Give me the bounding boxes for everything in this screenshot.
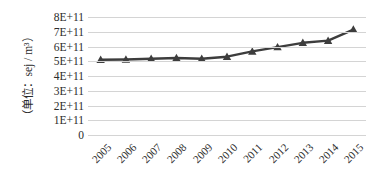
gridline xyxy=(88,17,366,18)
gridline xyxy=(88,76,366,77)
gridline xyxy=(88,32,366,33)
x-tick-label: 2005 xyxy=(81,141,114,174)
x-tick-label: 2008 xyxy=(156,141,189,174)
y-tick-label: 3E+11 xyxy=(24,85,84,97)
x-tick-label: 2012 xyxy=(257,141,290,174)
y-tick-label: 4E+11 xyxy=(24,70,84,82)
gridline xyxy=(88,47,366,48)
y-tick-label: 5E+11 xyxy=(24,55,84,67)
x-tick-label: 2011 xyxy=(232,141,265,174)
x-tick-label: 2015 xyxy=(333,141,366,174)
y-axis-tick-labels: 01E+112E+113E+114E+115E+116E+117E+118E+1… xyxy=(24,10,84,140)
gridline xyxy=(88,91,366,92)
gridline xyxy=(88,61,366,62)
gridline xyxy=(88,106,366,107)
line-chart-figure: （单位：sej / m³） 01E+112E+113E+114E+115E+11… xyxy=(0,0,375,184)
y-tick-label: 7E+11 xyxy=(24,26,84,38)
y-tick-label: 8E+11 xyxy=(24,11,84,23)
y-tick-label: 2E+11 xyxy=(24,100,84,112)
y-tick-label: 1E+11 xyxy=(24,114,84,126)
gridline xyxy=(88,120,366,121)
x-tick-label: 2009 xyxy=(182,141,215,174)
x-axis-tick-labels: 2005200620072008200920102011201220132014… xyxy=(88,135,366,184)
plot-area xyxy=(88,17,366,135)
y-tick-label: 6E+11 xyxy=(24,41,84,53)
y-tick-label: 0 xyxy=(24,129,84,141)
